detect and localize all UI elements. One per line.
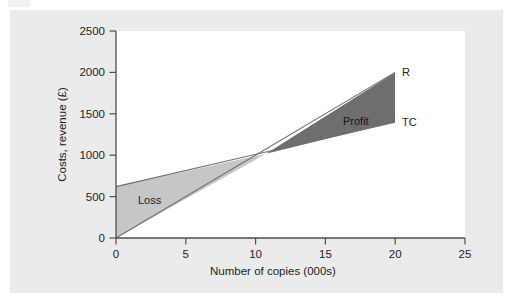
x-tick-label-10: 10 [249,248,262,260]
profit-region-label: Profit [343,115,369,127]
x-tick-label-25: 25 [459,248,472,260]
break-even-chart: 2500 2000 1500 1000 500 0 0 5 10 15 20 2… [10,10,503,293]
x-tick-label-5: 5 [183,248,189,260]
revenue-line-label: R [402,66,410,78]
total-cost-line-label: TC [402,116,417,128]
x-tick-label-20: 20 [389,248,402,260]
x-tick-label-0: 0 [113,248,119,260]
y-tick-label-1000: 1000 [79,149,105,161]
figure-caption-fragment [8,0,30,7]
x-axis-title: Number of copies (000s) [210,265,336,277]
y-tick-label-1500: 1500 [79,108,105,120]
y-tick-label-2500: 2500 [79,25,105,37]
y-tick-label-2000: 2000 [79,66,105,78]
x-tick-label-15: 15 [319,248,332,260]
y-tick-label-500: 500 [86,191,105,203]
loss-region-label: Loss [138,194,162,206]
y-tick-label-0: 0 [99,232,105,244]
figure-panel: 2500 2000 1500 1000 500 0 0 5 10 15 20 2… [10,10,503,293]
figure-root: 2500 2000 1500 1000 500 0 0 5 10 15 20 2… [0,0,513,302]
y-axis-title: Costs, revenue (£) [56,87,68,182]
